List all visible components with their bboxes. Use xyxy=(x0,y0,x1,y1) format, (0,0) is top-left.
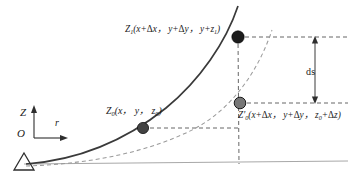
point-label-z0: Z0(x， y， z0) xyxy=(106,106,162,116)
point-marker-z0 xyxy=(137,122,148,133)
ground-line xyxy=(24,161,348,164)
axis-z xyxy=(31,105,37,138)
point-label-z0prime-text: Z′0(x+Δx， y+Δy， z0+Δz) xyxy=(238,110,341,120)
point-label-z1: Z1(x+Δx， y+Δy， y+z1) xyxy=(125,25,220,34)
axis-label-r: r xyxy=(55,118,59,128)
point-marker-z1 xyxy=(232,31,244,43)
point-label-z1-text: Z1(x+Δx， y+Δy， y+z1) xyxy=(125,24,220,34)
point-label-z0prime: Z′0(x+Δx， y+Δy， z0+Δz) xyxy=(238,111,341,120)
axis-r xyxy=(34,135,68,141)
point-marker-z0prime xyxy=(234,97,246,109)
support-triangle-icon xyxy=(14,153,34,170)
axis-label-origin: O xyxy=(17,128,25,139)
axis-label-z: Z xyxy=(20,107,26,118)
point-label-z0-text: Z0(x， y， z0) xyxy=(106,105,162,116)
dashed-profile-curve xyxy=(26,30,272,166)
diagram-canvas: Z1(x+Δx， y+Δy， y+z1) Z0(x， y， z0) Z′0(x+… xyxy=(0,0,358,183)
measure-label-ds: ds xyxy=(306,67,315,77)
